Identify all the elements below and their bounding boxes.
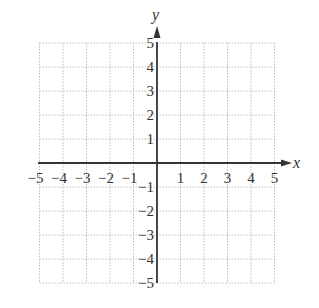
x-axis-arrow-icon <box>281 160 292 167</box>
x-tick-label: −2 <box>98 170 114 186</box>
y-tick-label: 1 <box>147 131 155 147</box>
y-tick-label: 5 <box>147 35 155 51</box>
y-tick-label: −1 <box>138 179 154 195</box>
x-tick-label: 3 <box>224 170 232 186</box>
y-axis-label: y <box>150 6 160 24</box>
y-tick-label: 2 <box>147 107 155 123</box>
x-tick-label: 2 <box>200 170 208 186</box>
y-tick-label: 4 <box>147 59 155 75</box>
y-tick-label: −4 <box>138 251 154 267</box>
y-tick-label: −2 <box>138 203 154 219</box>
x-tick-label: −3 <box>75 170 91 186</box>
x-tick-label: 5 <box>271 170 279 186</box>
x-tick-label: 4 <box>247 170 255 186</box>
x-tick-label: −4 <box>51 170 67 186</box>
y-tick-label: 3 <box>147 83 155 99</box>
axes <box>38 26 292 283</box>
coordinate-plane: −5−4−3−2−112345 −5−4−3−2−112345 x y <box>0 0 319 308</box>
y-axis-arrow-icon <box>154 26 161 38</box>
x-tick-label: −5 <box>28 170 44 186</box>
x-axis-label: x <box>292 154 300 171</box>
y-tick-label: −5 <box>138 275 154 291</box>
x-tick-label: 1 <box>177 170 185 186</box>
y-tick-label: −3 <box>138 227 154 243</box>
x-tick-label: −1 <box>122 170 138 186</box>
